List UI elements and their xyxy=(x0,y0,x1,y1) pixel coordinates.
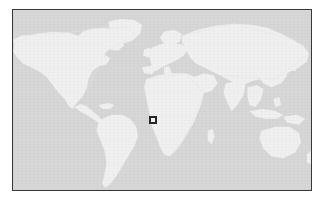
world-locator-figure: World map with a small square marker ove… xyxy=(0,0,324,201)
map-frame[interactable] xyxy=(12,9,312,191)
location-marker[interactable] xyxy=(149,116,157,124)
world-map[interactable] xyxy=(13,10,311,190)
figure-alt-text: World map with a small square marker ove… xyxy=(0,0,1,1)
